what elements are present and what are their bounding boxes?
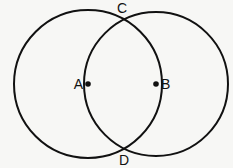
point-b-dot xyxy=(153,81,159,87)
point-d-label: D xyxy=(119,152,129,168)
point-a-dot xyxy=(85,81,91,87)
geometry-diagram: A B C D xyxy=(0,0,233,168)
geometry-canvas: A B C D xyxy=(0,0,233,168)
point-a-label: A xyxy=(74,76,84,92)
point-b-label: B xyxy=(161,76,170,92)
point-c-label: C xyxy=(117,0,127,16)
